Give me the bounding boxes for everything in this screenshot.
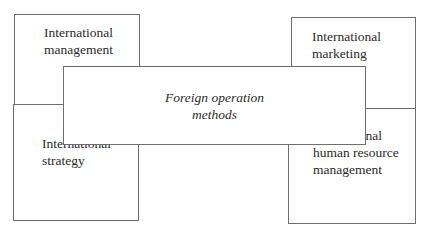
international-management-label: International management xyxy=(44,24,113,58)
foreign-operation-methods-box: Foreign operation methods xyxy=(63,66,366,145)
international-marketing-label: International marketing xyxy=(312,28,381,62)
foreign-operation-methods-label: Foreign operation methods xyxy=(64,89,365,123)
